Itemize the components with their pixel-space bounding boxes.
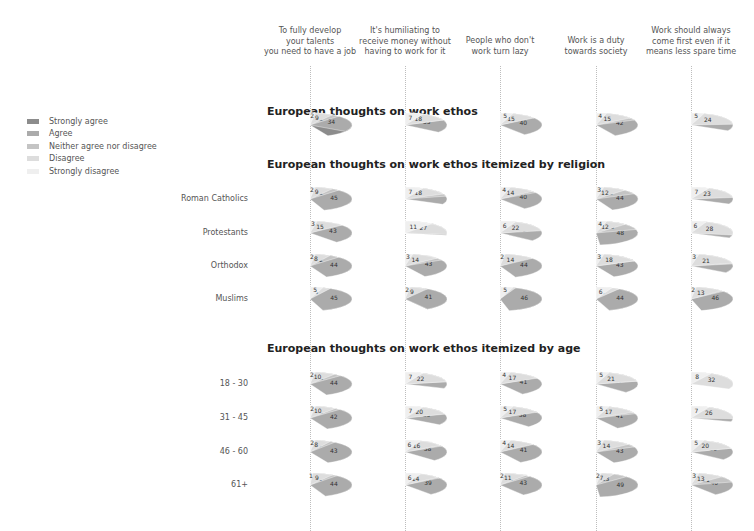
section-title: European thoughts on work ethos itemized…: [267, 342, 580, 355]
slice-value: 9: [315, 188, 319, 195]
pie-chart: 244418123: [552, 185, 640, 213]
slice-value: 26: [705, 409, 713, 416]
slice-value: 5: [503, 405, 507, 412]
slice-value: 3: [692, 253, 696, 260]
slice-value: 4: [598, 112, 602, 119]
pie-chart: 284111144: [456, 438, 544, 466]
slice-value: 13: [697, 475, 705, 482]
pie-chart: 184318183: [552, 252, 640, 280]
slice-value: 7: [408, 188, 412, 195]
row-label: Protestants: [128, 228, 248, 237]
slice-value: 2: [596, 472, 600, 479]
slice-value: 8: [314, 255, 318, 262]
pie-chart: 424585: [266, 285, 354, 313]
legend-item: Disagree: [27, 153, 157, 166]
slice-value: 2: [310, 186, 314, 193]
pie-chart: 1328212711: [361, 219, 449, 247]
slice-value: 1: [309, 472, 313, 479]
slice-value: 4: [502, 186, 506, 193]
legend-label: Strongly agree: [49, 117, 108, 126]
slice-value: 8: [695, 373, 699, 380]
slice-value: 2: [691, 286, 695, 293]
slice-value: 41: [425, 293, 433, 300]
pie-chart: 37431082: [266, 438, 354, 466]
slice-value: 3: [597, 253, 601, 260]
slice-value: 28: [706, 225, 714, 232]
slice-value: 10: [314, 407, 322, 414]
slice-value: 6: [694, 222, 698, 229]
slice-value: 3: [597, 186, 601, 193]
legend-label: Disagree: [49, 154, 85, 163]
pie-chart: 374312153: [266, 219, 354, 247]
slice-value: 49: [616, 481, 624, 488]
legend-item: Strongly disagree: [27, 165, 157, 178]
pie-chart: 314212102: [266, 404, 354, 432]
legend-swatch: [27, 119, 39, 124]
pie-chart: 234021133: [647, 471, 735, 499]
section-title: European thoughts on work ethos itemized…: [267, 158, 605, 171]
pie-chart: 253815175: [456, 404, 544, 432]
pie-chart: 35441191: [266, 471, 354, 499]
slice-value: 2: [310, 112, 314, 119]
row-label: Muslims: [128, 294, 248, 303]
slice-value: 4: [598, 220, 602, 227]
pie-chart: 173321245: [647, 111, 735, 139]
slice-value: 14: [411, 256, 419, 263]
row-label: 18 - 30: [128, 379, 248, 388]
pie-chart: 204218154: [552, 111, 640, 139]
pie-chart: 112821328: [647, 370, 735, 398]
pie-chart: 174119175: [552, 404, 640, 432]
slice-value: 4: [502, 371, 506, 378]
slice-value: 2: [405, 286, 409, 293]
slice-value: 8: [314, 441, 318, 448]
slice-value: 5: [599, 405, 603, 412]
slice-value: 5: [313, 286, 317, 293]
slice-value: 2: [310, 253, 314, 260]
legend-item: Agree: [27, 128, 157, 141]
row-label: 31 - 45: [128, 413, 248, 422]
slice-value: 5: [694, 439, 698, 446]
slice-value: 45: [330, 294, 338, 301]
legend: Strongly agreeAgreeNeither agree nor dis…: [27, 115, 157, 178]
pie-chart: 35441282: [266, 252, 354, 280]
pie-chart: 324413102: [266, 370, 354, 398]
slice-value: 15: [316, 223, 324, 230]
slice-value: 11: [409, 223, 417, 230]
slice-value: 13: [697, 289, 705, 296]
row-label: 46 - 60: [128, 447, 248, 456]
slice-value: 5: [503, 112, 507, 119]
pie-chart: 173221237: [647, 185, 735, 213]
slice-value: 7: [408, 373, 412, 380]
pie-chart: 183122227: [361, 370, 449, 398]
pie-chart: 374313112: [456, 471, 544, 499]
slice-value: 6: [408, 441, 412, 448]
row-label: 61+: [128, 480, 248, 489]
pie-chart: 193620205: [647, 438, 735, 466]
slice-value: 24: [704, 116, 712, 123]
pie-chart: 163620226: [456, 219, 544, 247]
legend-label: Neither agree nor disagree: [49, 142, 157, 151]
slice-value: 2: [310, 371, 314, 378]
slice-value: 6: [599, 288, 603, 295]
slice-value: 6: [503, 222, 507, 229]
slice-value: 3: [406, 253, 410, 260]
slice-value: 5: [694, 112, 698, 119]
slice-value: 4: [502, 439, 506, 446]
pie-chart: 254614132: [647, 285, 735, 313]
slice-value: 5: [503, 286, 507, 293]
pie-chart: 253915146: [361, 471, 449, 499]
pie-chart: 43341292: [266, 111, 354, 139]
slice-value: 44: [616, 294, 624, 301]
slice-value: 44: [330, 379, 338, 386]
pie-chart: 193422213: [647, 252, 735, 280]
legend-label: Agree: [49, 129, 73, 138]
pie-chart: 294411142: [456, 252, 544, 280]
pie-chart: 264016144: [456, 185, 544, 213]
pie-chart: 30491372: [552, 471, 640, 499]
slice-value: 45: [330, 194, 338, 201]
slice-value: 21: [702, 257, 710, 264]
slice-value: 2: [500, 253, 504, 260]
slice-value: 5: [599, 371, 603, 378]
slice-value: 42: [330, 413, 338, 420]
column-header: Work should alwayscome first even if itm…: [631, 26, 751, 58]
